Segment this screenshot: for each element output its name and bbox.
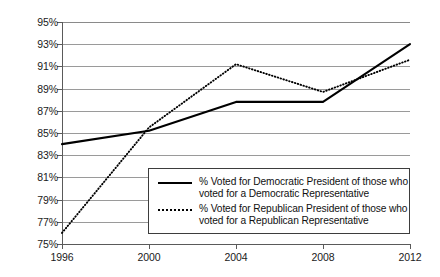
x-axis-tick-label: 2004 [225,251,248,263]
y-axis-tick-label: 95% [37,16,58,28]
y-axis-tick-label: 87% [37,105,58,117]
x-axis-tick-label: 2008 [312,251,335,263]
x-axis-tick [62,244,63,249]
chart-container: 95%93%91%89%87%85%83%81%79%77%75% 199620… [0,0,440,277]
x-axis-tick [410,244,411,249]
x-axis-tick [149,244,150,249]
x-axis-tick-label: 2000 [138,251,161,263]
legend-label-republican: % Voted for Republican President of thos… [199,203,407,228]
x-axis-tick [323,244,324,249]
y-axis-tick-label: 77% [37,216,58,228]
legend-label-republican-line2: voted for a Republican Representative [199,215,407,227]
legend-label-republican-line1: % Voted for Republican President of thos… [199,203,407,214]
x-axis-tick-label: 1996 [51,251,74,263]
chart-legend: % Voted for Democratic President of thos… [148,168,410,234]
x-axis-tick [236,244,237,249]
y-axis-tick-label: 75% [37,238,58,250]
legend-label-democratic-line1: % Voted for Democratic President of thos… [199,176,408,187]
y-axis-tick-label: 85% [37,127,58,139]
y-axis-tick-label: 89% [37,83,58,95]
y-axis-tick-label: 81% [37,171,58,183]
y-axis-tick-label: 83% [37,149,58,161]
y-axis-tick-label: 79% [37,194,58,206]
x-axis-tick-label: 2012 [399,251,422,263]
series-line-democratic [62,44,410,144]
y-axis-tick-label: 93% [37,38,58,50]
dotted-line-key-icon [158,203,192,216]
legend-label-democratic: % Voted for Democratic President of thos… [199,176,408,201]
solid-line-key-icon [158,176,192,189]
legend-item-republican: % Voted for Republican President of thos… [158,203,403,228]
y-axis-tick-label: 91% [37,60,58,72]
legend-label-democratic-line2: voted for a Democratic Representative [199,188,408,200]
legend-item-democratic: % Voted for Democratic President of thos… [158,176,403,201]
